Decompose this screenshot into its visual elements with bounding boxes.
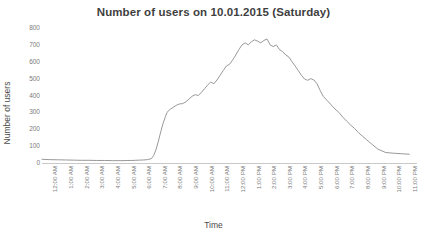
x-tick-label: 11:00 AM: [224, 166, 230, 192]
x-tick-label: 10:00 PM: [396, 166, 402, 192]
y-axis-title: Number of users: [2, 58, 12, 168]
x-tick-label: 8:00 PM: [365, 166, 371, 189]
series-canvas: [42, 28, 417, 163]
y-tick-label: 0: [14, 160, 40, 167]
y-tick-label: 300: [14, 109, 40, 116]
x-tick-label: 3:00 PM: [287, 166, 293, 189]
user-count-line: [42, 39, 409, 161]
chart-title: Number of users on 10.01.2015 (Saturday): [0, 6, 427, 18]
x-tick-label: 7:00 PM: [349, 166, 355, 189]
x-tick-label: 10:00 AM: [209, 166, 215, 192]
y-tick-label: 100: [14, 143, 40, 150]
x-tick-label: 4:00 PM: [302, 166, 308, 189]
y-tick-label: 600: [14, 59, 40, 66]
users-line-chart: Number of users on 10.01.2015 (Saturday)…: [0, 0, 427, 237]
x-tick-label: 8:00 AM: [177, 166, 183, 189]
x-tick-label: 3:00 AM: [99, 166, 105, 189]
x-tick-label: 1:00 PM: [256, 166, 262, 189]
x-tick-label: 12:00 PM: [240, 166, 246, 192]
x-tick-label: 7:00 AM: [162, 166, 168, 189]
x-tick-label: 4:00 AM: [115, 166, 121, 189]
y-tick-label: 800: [14, 25, 40, 32]
x-tick-label: 9:00 AM: [193, 166, 199, 189]
x-tick-label: 2:00 PM: [271, 166, 277, 189]
x-axis-tick-labels: 12:00 AM1:00 AM2:00 AM3:00 AM4:00 AM5:00…: [42, 166, 417, 212]
y-tick-label: 500: [14, 75, 40, 82]
x-axis-baseline: [42, 163, 417, 164]
y-tick-label: 400: [14, 92, 40, 99]
y-tick-label: 200: [14, 126, 40, 133]
x-tick-label: 11:00 PM: [412, 166, 418, 192]
x-tick-label: 5:00 AM: [131, 166, 137, 189]
x-tick-label: 1:00 AM: [68, 166, 74, 189]
plot-area: [42, 28, 417, 163]
x-tick-label: 5:00 PM: [318, 166, 324, 189]
y-axis-tick-labels: 8007006005004003002001000: [14, 0, 40, 237]
y-tick-label: 700: [14, 42, 40, 49]
x-tick-label: 2:00 AM: [84, 166, 90, 189]
x-axis-title: Time: [0, 220, 427, 230]
x-tick-label: 6:00 AM: [146, 166, 152, 189]
x-tick-label: 6:00 PM: [334, 166, 340, 189]
x-tick-label: 12:00 AM: [52, 166, 58, 192]
x-tick-label: 9:00 PM: [381, 166, 387, 189]
